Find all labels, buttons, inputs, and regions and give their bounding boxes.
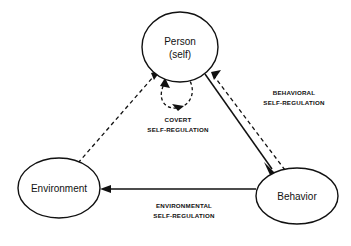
edge-environment-to-person bbox=[78, 70, 161, 163]
edge-label-covert: COVERT SELF-REGULATION bbox=[147, 116, 209, 133]
edge-person-to-behavior bbox=[205, 74, 275, 175]
edge-behavior-to-person bbox=[211, 70, 285, 170]
diagram-canvas: Person (self) Environment Behavior COVER… bbox=[0, 0, 351, 246]
node-environment[interactable]: Environment bbox=[18, 158, 100, 218]
node-behavior[interactable]: Behavior bbox=[256, 168, 338, 224]
edge-behavior-to-environment bbox=[100, 185, 256, 193]
node-person[interactable]: Person (self) bbox=[142, 12, 218, 82]
behavior-to-environment-arrowhead bbox=[100, 185, 111, 193]
person-ellipse[interactable] bbox=[142, 12, 218, 82]
environmental-label-line2: SELF-REGULATION bbox=[153, 212, 215, 219]
edge-covert-self-loop bbox=[160, 78, 192, 111]
person-label-line1: Person bbox=[164, 36, 196, 47]
covert-label-line1: COVERT bbox=[165, 116, 192, 123]
environmental-label-line1: ENVIRONMENTAL bbox=[156, 202, 212, 209]
person-to-behavior-line bbox=[205, 74, 272, 169]
person-label-line2: (self) bbox=[169, 49, 191, 60]
behavior-to-person-arrowhead bbox=[211, 70, 221, 80]
behavioral-label-line2: SELF-REGULATION bbox=[263, 99, 325, 106]
behavior-label: Behavior bbox=[277, 191, 317, 202]
diagram-svg: Person (self) Environment Behavior COVER… bbox=[0, 0, 351, 246]
edge-label-behavioral: BEHAVIORAL SELF-REGULATION bbox=[263, 89, 325, 106]
environment-to-person-line bbox=[78, 76, 154, 163]
environment-label: Environment bbox=[31, 183, 87, 194]
edge-label-environmental: ENVIRONMENTAL SELF-REGULATION bbox=[153, 202, 215, 219]
behavioral-label-line1: BEHAVIORAL bbox=[273, 89, 315, 96]
covert-label-line2: SELF-REGULATION bbox=[147, 126, 209, 133]
